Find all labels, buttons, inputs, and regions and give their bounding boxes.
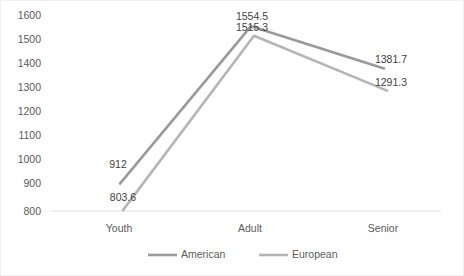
data-label: 1291.3	[375, 76, 407, 88]
x-tick-label-senior: Senior	[368, 222, 399, 234]
chart-legend: American European	[148, 248, 338, 260]
data-label: 912	[109, 158, 127, 170]
data-labels-american: 912 1554.5 1381.7	[109, 10, 407, 170]
data-label: 1515.3	[236, 21, 268, 33]
data-labels-european: 803.6 1515.3 1291.3	[110, 21, 407, 203]
data-label: 1381.7	[375, 53, 407, 65]
data-label: 803.6	[110, 191, 136, 203]
y-tick-label: 1500	[18, 33, 42, 45]
y-tick-label: 1200	[18, 105, 42, 117]
legend-label-american: American	[181, 248, 226, 260]
x-tick-label-adult: Adult	[238, 222, 262, 234]
x-tick-label-youth: Youth	[106, 222, 133, 234]
y-tick-label: 800	[23, 205, 41, 217]
y-tick-label: 1600	[18, 9, 42, 21]
x-axis-tick-labels: Youth Adult Senior	[106, 222, 399, 234]
series-line-european	[123, 36, 387, 210]
legend-label-european: European	[292, 248, 338, 260]
chart-canvas: 1600 1500 1400 1300 1200 1100 1000 900 8…	[1, 1, 464, 276]
y-tick-label: 1300	[18, 81, 42, 93]
y-tick-label: 900	[23, 177, 41, 189]
y-axis-tick-labels: 1600 1500 1400 1300 1200 1100 1000 900 8…	[18, 9, 42, 217]
line-chart: 1600 1500 1400 1300 1200 1100 1000 900 8…	[0, 0, 464, 276]
y-tick-label: 1400	[18, 57, 42, 69]
y-tick-label: 1000	[18, 153, 42, 165]
y-tick-label: 1100	[18, 129, 41, 141]
